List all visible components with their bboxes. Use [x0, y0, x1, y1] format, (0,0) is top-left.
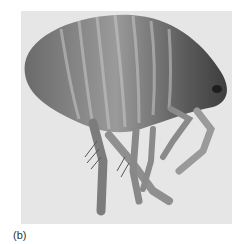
flea-eye — [212, 85, 222, 93]
flea-photo — [21, 11, 232, 224]
figure-label: (b) — [13, 229, 26, 241]
